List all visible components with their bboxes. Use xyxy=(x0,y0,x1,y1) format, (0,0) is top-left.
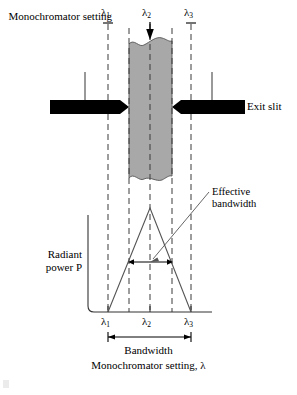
axis-tick-lambda1-subscript: 1 xyxy=(106,320,110,329)
bandwidth-label: Bandwidth xyxy=(0,344,297,357)
bandwidth-arrowhead-right xyxy=(184,334,191,339)
axis-tick-lambda3-subscript: 3 xyxy=(189,320,193,329)
axis-tick-lambda2-subscript: 2 xyxy=(147,320,151,329)
top-label-lambda1: λ1 xyxy=(101,6,110,20)
top-label-lambda3-subscript: 3 xyxy=(189,11,193,20)
exit-slit-jaw-right xyxy=(172,100,245,114)
lambda2-down-arrow xyxy=(146,22,154,40)
axis-tick-label-lambda3: λ3 xyxy=(184,315,193,329)
radiant-power-axis-label: Radiant power P xyxy=(18,248,82,274)
monochromator-setting-heading: Monochromator setting xyxy=(4,10,112,23)
top-label-lambda2-subscript: 2 xyxy=(147,11,151,20)
axis-tick-label-lambda1: λ1 xyxy=(101,315,110,329)
x-axis-label: Monochromator setting, λ xyxy=(0,359,297,372)
effective-bandwidth-arrow xyxy=(128,259,173,264)
top-label-lambda2: λ2 xyxy=(142,6,151,20)
top-label-lambda1-subscript: 1 xyxy=(106,11,110,20)
baseline-ticks xyxy=(108,306,191,312)
axis-tick-label-lambda2: λ2 xyxy=(142,315,151,329)
dashed-guide-lines xyxy=(108,24,191,312)
bandwidth-arrowhead-left xyxy=(108,334,115,339)
effective-bandwidth-leader xyxy=(150,192,209,262)
exit-slit-label: Exit slit xyxy=(247,100,282,113)
monochromator-bandwidth-figure: Monochromator setting Exit slit Effectiv… xyxy=(0,0,297,395)
effective-bandwidth-label: Effective bandwidth xyxy=(212,186,292,211)
top-label-lambda3: λ3 xyxy=(184,6,193,20)
exit-slit-jaw-left xyxy=(50,100,129,114)
scan-artifact xyxy=(3,380,9,388)
bandwidth-measure-arrow xyxy=(108,332,191,342)
leader-arrowhead xyxy=(150,257,159,262)
